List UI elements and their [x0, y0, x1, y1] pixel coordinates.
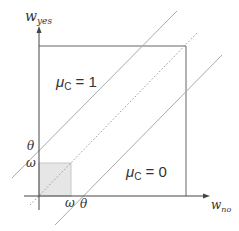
y-theta-tick: θ [27, 139, 35, 153]
x-omega-tick: ω [65, 196, 75, 210]
y-omega-tick: ω [26, 156, 36, 170]
diagonal-dotted-line [30, 33, 197, 205]
x-axis-arrow-icon [203, 194, 210, 199]
x-axis-label: wno [211, 198, 231, 214]
upper-threshold-line [12, 11, 177, 178]
region-label-mu-1: μC = 1 [55, 73, 97, 92]
x-theta-tick: θ [80, 197, 88, 211]
y-axis-label: wyes [25, 8, 52, 26]
region-label-mu-0: μC = 0 [125, 163, 167, 182]
y-axis-arrow-icon [37, 26, 42, 33]
decision-diagram: wyes wno μC = 1 μC = 0 θ ω ω θ [0, 0, 239, 231]
